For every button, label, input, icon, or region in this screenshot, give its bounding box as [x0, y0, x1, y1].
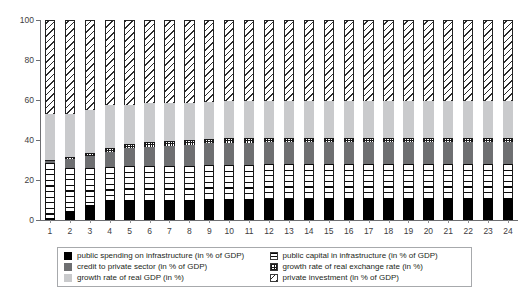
x-tick-mark	[309, 220, 310, 223]
bar-segment	[503, 101, 513, 138]
x-tick-mark	[229, 220, 230, 223]
bar-segment	[403, 101, 413, 138]
bar-segment	[184, 166, 194, 200]
bar-segment	[264, 138, 274, 143]
bar-segment	[144, 142, 154, 146]
bar-segment	[124, 20, 134, 105]
x-tick-mark	[209, 220, 210, 223]
bar-segment	[284, 164, 294, 198]
bar-segment	[423, 198, 433, 220]
x-tick-mark	[150, 220, 151, 223]
bar-segment	[204, 165, 214, 199]
bar-segment	[124, 105, 134, 144]
bar-segment	[224, 101, 234, 138]
y-tick-label: 60	[25, 95, 34, 105]
bar-segment	[85, 156, 95, 168]
bar-column	[85, 20, 95, 220]
bar-column	[423, 20, 433, 220]
y-tick-label: 20	[25, 175, 34, 185]
bar-column	[184, 20, 194, 220]
bar-segment	[105, 152, 115, 167]
x-tick-label: 1	[48, 226, 53, 236]
bar-segment	[483, 198, 493, 220]
solid-lightgray-swatch-icon	[64, 274, 72, 282]
x-axis-line	[40, 220, 518, 221]
bar-segment	[483, 142, 493, 164]
bar-segment	[45, 114, 55, 160]
bar-segment	[284, 138, 294, 143]
bar-column	[304, 20, 314, 220]
legend-item-label: credit to private sector (in % of GDP)	[77, 263, 207, 271]
x-tick-mark	[289, 220, 290, 223]
legend-item-label: public capital in infrastructure (in % o…	[283, 252, 438, 260]
bar-column	[463, 20, 473, 220]
bar-segment	[85, 153, 95, 156]
bar-segment	[483, 138, 493, 143]
bar-segment	[124, 148, 134, 166]
x-tick-label: 11	[245, 226, 254, 236]
bar-segment	[423, 20, 433, 101]
bar-column	[264, 20, 274, 220]
bar-segment	[304, 142, 314, 164]
bar-segment	[124, 200, 134, 220]
x-tick-label: 14	[304, 226, 313, 236]
x-tick-label: 24	[503, 226, 512, 236]
bar-segment	[443, 164, 453, 198]
diagonal-hatch-swatch-icon	[270, 274, 278, 282]
bar-segment	[503, 164, 513, 198]
bar-segment	[85, 168, 95, 205]
y-tick-label: 100	[20, 15, 34, 25]
x-tick-label: 5	[127, 226, 132, 236]
bar-segment	[304, 101, 314, 138]
bar-segment	[224, 138, 234, 143]
chart-legend: public spending on infrastructure (in % …	[57, 247, 472, 287]
x-tick-mark	[488, 220, 489, 223]
bar-segment	[264, 164, 274, 198]
x-tick-mark	[508, 220, 509, 223]
x-tick-label: 22	[463, 226, 472, 236]
bar-column	[65, 20, 75, 220]
bar-column	[204, 20, 214, 220]
bar-segment	[324, 101, 334, 138]
x-tick-mark	[269, 220, 270, 223]
x-tick-mark	[110, 220, 111, 223]
bar-segment	[463, 198, 473, 220]
bar-segment	[164, 200, 174, 220]
x-tick-label: 2	[68, 226, 73, 236]
bar-segment	[363, 164, 373, 198]
bar-segment	[204, 143, 214, 165]
bar-column	[105, 20, 115, 220]
x-tick-label: 18	[384, 226, 393, 236]
bar-segment	[105, 148, 115, 152]
bar-segment	[284, 101, 294, 138]
bar-segment	[403, 138, 413, 143]
x-tick-label: 20	[424, 226, 433, 236]
bar-segment	[244, 101, 254, 138]
legend-item: credit to private sector (in % of GDP)	[64, 263, 266, 271]
x-tick-mark	[70, 220, 71, 223]
x-tick-mark	[249, 220, 250, 223]
bar-segment	[363, 20, 373, 101]
solid-black-swatch-icon	[64, 252, 72, 260]
x-tick-mark	[428, 220, 429, 223]
bar-segment	[344, 138, 354, 143]
bar-segment	[304, 199, 314, 220]
bar-segment	[423, 164, 433, 198]
bar-segment	[45, 20, 55, 114]
bar-segment	[383, 138, 393, 143]
bar-segment	[184, 103, 194, 140]
bar-segment	[304, 138, 314, 143]
bar-column	[483, 20, 493, 220]
bar-segment	[344, 198, 354, 220]
bar-segment	[264, 142, 274, 164]
x-tick-label: 6	[147, 226, 152, 236]
bar-segment	[164, 146, 174, 167]
x-tick-label: 8	[187, 226, 192, 236]
x-tick-mark	[90, 220, 91, 223]
x-tick-mark	[50, 220, 51, 223]
bar-segment	[204, 199, 214, 220]
dotted-grid-swatch-icon	[270, 263, 278, 271]
bar-segment	[244, 138, 254, 143]
bar-segment	[324, 198, 334, 220]
bar-segment	[363, 198, 373, 220]
